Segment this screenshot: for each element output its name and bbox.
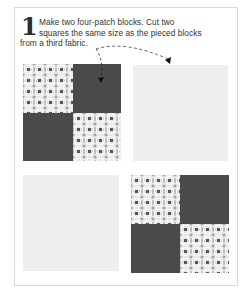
arrowhead-icon (98, 77, 104, 83)
dashed-arrow-icon (0, 0, 249, 297)
